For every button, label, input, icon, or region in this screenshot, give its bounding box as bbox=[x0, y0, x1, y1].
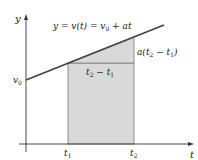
y-axis-arrow-icon bbox=[24, 14, 28, 20]
velocity-time-diagram: y t y = v(t) = v0 + at v0 t2 − t1 a(t2 −… bbox=[0, 0, 198, 160]
v0-label: v0 bbox=[13, 75, 22, 86]
t1-tick-label: t1 bbox=[64, 148, 71, 159]
x-axis-arrow-icon bbox=[188, 142, 194, 146]
equation-label: y = v(t) = v0 + at bbox=[52, 21, 132, 32]
x-axis-label: t bbox=[190, 149, 195, 160]
t2-tick-label: t2 bbox=[130, 148, 138, 159]
rise-label: a(t2 − t1) bbox=[137, 47, 178, 58]
y-axis-label: y bbox=[14, 13, 21, 24]
